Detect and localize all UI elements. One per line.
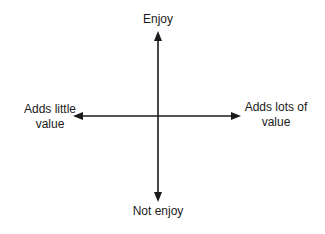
axis-label-adds-lots-of-value: Adds lots of value — [226, 100, 325, 130]
arrow-down-icon — [154, 192, 162, 202]
axis-label-not-enjoy-text: Not enjoy — [98, 204, 218, 219]
axis-label-right-line1: Adds lots of — [226, 100, 325, 115]
axis-label-left-line1: Adds little — [0, 102, 100, 117]
axis-label-not-enjoy: Not enjoy — [98, 204, 218, 219]
axis-label-enjoy: Enjoy — [108, 12, 208, 27]
axis-label-adds-little-value: Adds little value — [0, 102, 100, 132]
axis-label-left-line2: value — [0, 117, 100, 132]
arrow-up-icon — [154, 31, 162, 41]
axis-label-enjoy-text: Enjoy — [108, 12, 208, 27]
axis-label-right-line2: value — [226, 115, 325, 130]
